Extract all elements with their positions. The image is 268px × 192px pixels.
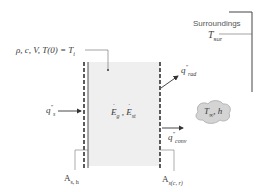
source-flux-label: q"s [46, 106, 55, 115]
radiation-flux-label: q"rad [181, 66, 196, 75]
fluid-conditions-label: T∞, h [204, 106, 222, 116]
surroundings-temp-label: Tsur [208, 30, 222, 40]
energy-generation: Eg · [111, 107, 122, 117]
area-cooled-label: As(c, r) [162, 175, 183, 184]
radiation-flux-arrow [161, 76, 178, 88]
diagram-canvas [0, 0, 268, 192]
surroundings-label: Surroundings [193, 20, 241, 28]
area-heated-label: As, h [64, 174, 79, 183]
energy-terms-label: Eg · , Est · [111, 108, 136, 117]
convection-flux-label: q"conv [168, 133, 186, 142]
area-heated-leader [75, 150, 88, 170]
properties-dot [107, 69, 109, 71]
area-cooled-leader [160, 150, 174, 171]
energy-storage: Est · [126, 107, 136, 117]
body-properties-label: ρ, c, V, T(0) = Ti [16, 46, 75, 55]
